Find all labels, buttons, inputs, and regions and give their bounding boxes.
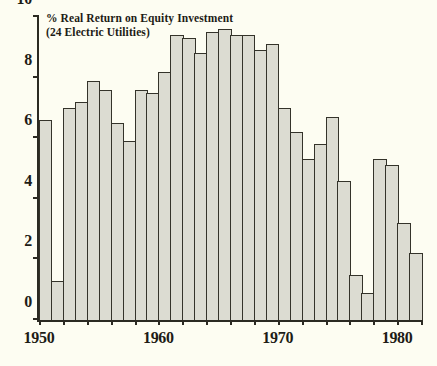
- y-axis-tick: [33, 136, 39, 138]
- bar-series: [39, 17, 421, 320]
- x-axis-tick-label: 1950: [24, 329, 55, 347]
- x-axis-tick-label: 1970: [262, 329, 293, 347]
- chart-container: % Real Return on Equity Investment (24 E…: [0, 0, 437, 366]
- x-axis-tick: [158, 320, 160, 325]
- x-axis-tick-label: 1980: [382, 329, 413, 347]
- y-axis-tick-label: 0: [24, 293, 32, 311]
- y-axis-tick: [33, 15, 39, 17]
- x-axis-tick: [349, 320, 351, 325]
- x-axis-tick: [230, 320, 232, 325]
- x-axis-tick: [302, 320, 304, 325]
- y-axis-tick: [33, 257, 39, 259]
- y-axis-tick-label: 10: [17, 0, 32, 8]
- x-axis-tick: [397, 320, 399, 325]
- y-axis-tick-label: 6: [24, 111, 32, 129]
- bar: [409, 253, 422, 320]
- x-axis-tick: [206, 320, 208, 325]
- x-axis-tick: [326, 320, 328, 325]
- y-axis-tick: [33, 76, 39, 78]
- y-axis-tick-label: 4: [24, 171, 32, 189]
- x-axis-tick: [39, 320, 41, 325]
- plot-area: 0246810 1950196019701980: [37, 17, 421, 322]
- x-axis-tick: [254, 320, 256, 325]
- y-axis-tick-label: 8: [24, 50, 32, 68]
- x-axis-tick: [111, 320, 113, 325]
- x-axis-tick: [421, 320, 423, 325]
- y-axis-tick: [33, 197, 39, 199]
- x-axis-tick-label: 1960: [143, 329, 174, 347]
- y-axis-tick-label: 2: [24, 232, 32, 250]
- x-axis-tick: [278, 320, 280, 325]
- x-axis-tick: [182, 320, 184, 325]
- x-axis-tick: [135, 320, 137, 325]
- x-axis-tick: [63, 320, 65, 325]
- x-axis-tick: [87, 320, 89, 325]
- x-axis-tick: [373, 320, 375, 325]
